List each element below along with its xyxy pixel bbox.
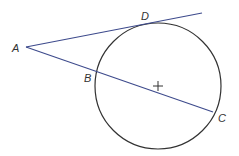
center-mark <box>153 81 163 91</box>
label-a: A <box>11 42 19 54</box>
label-d: D <box>141 10 149 22</box>
label-c: C <box>218 112 226 124</box>
tangent-line-ad <box>26 13 202 47</box>
geometry-diagram: A D B C <box>0 0 239 156</box>
secant-line-abc <box>26 47 213 112</box>
label-b: B <box>84 72 91 84</box>
